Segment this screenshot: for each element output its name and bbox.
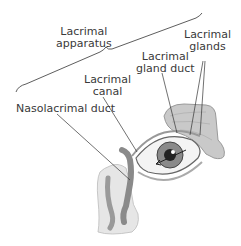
- label-lacrimal-gland-duct: Lacrimal gland duct: [136, 51, 195, 75]
- label-line: apparatus: [56, 38, 112, 50]
- label-line: canal: [84, 86, 131, 98]
- label-lacrimal-canal: Lacrimal canal: [84, 74, 131, 98]
- label-nasolacrimal-duct: Nasolacrimal duct: [16, 103, 115, 115]
- label-line: gland duct: [136, 63, 195, 75]
- leader-nasolacrimal: [57, 114, 130, 180]
- label-lacrimal-glands: Lacrimal glands: [184, 29, 231, 53]
- label-lacrimal-apparatus: Lacrimal apparatus: [56, 26, 112, 50]
